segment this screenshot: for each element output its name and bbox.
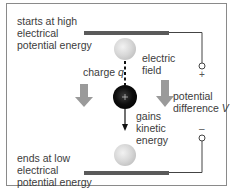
bottom-wire [169,141,202,173]
field-arrow-left-icon [75,84,93,107]
start-charge-ghost-icon [114,38,136,60]
electric-field-label: electric field [142,52,175,76]
potential-difference-label: potential difference V [173,90,229,114]
negative-terminal-icon [199,135,205,141]
gains-kinetic-energy-label: gains kinetic energy [136,110,168,146]
charge-label: charge q [83,66,124,78]
end-charge-ghost-icon [114,144,136,166]
bottom-plate [84,171,169,175]
plus-sign: + [199,70,205,80]
top-plate [84,31,169,35]
field-arrow-right-icon [156,80,174,107]
minus-sign: – [199,124,205,134]
motion-arrow-icon [122,124,128,131]
start-label: starts at high electrical potential ener… [17,15,92,51]
end-label: ends at low electrical potential energy [17,152,92,188]
